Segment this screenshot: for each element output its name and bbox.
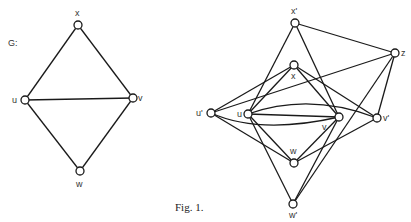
node-v	[129, 94, 137, 102]
edge-x-v	[78, 25, 133, 98]
node-w	[76, 167, 84, 175]
edge-u'-w	[211, 113, 294, 163]
edge-u-v	[25, 98, 133, 100]
edge-u-v	[248, 114, 339, 117]
node-w-prime	[289, 200, 297, 208]
graph-g: G: x u v w	[8, 8, 143, 189]
node-v-prime	[373, 114, 381, 122]
label-v: v	[138, 93, 143, 103]
node-u-prime	[207, 109, 215, 117]
edge-x-u	[25, 25, 78, 100]
figure-caption: Fig. 1.	[175, 201, 204, 213]
edge-z-w'	[293, 53, 395, 204]
node-u	[21, 96, 29, 104]
edge-v'-z	[377, 53, 395, 118]
label-v: v	[322, 122, 327, 132]
label-w-prime: w'	[288, 210, 297, 220]
node-x-prime	[291, 19, 299, 27]
figure-canvas: G: x u v w	[0, 0, 411, 222]
edge-x'-z	[295, 23, 395, 53]
label-u: u	[237, 109, 242, 119]
label-u: u	[12, 95, 17, 105]
label-v-prime: v'	[383, 113, 390, 123]
node-x	[74, 21, 82, 29]
edge-u-w	[25, 100, 80, 171]
edge-x-u	[248, 65, 294, 114]
label-u-prime: u'	[196, 108, 203, 118]
graph-label: G:	[8, 38, 18, 48]
node-u	[244, 110, 252, 118]
label-w: w	[75, 179, 83, 189]
node-w	[290, 159, 298, 167]
node-v	[335, 113, 343, 121]
label-z: z	[401, 48, 406, 58]
label-x: x	[75, 8, 80, 18]
graph-right: x' z x u' u v v' w w'	[196, 6, 406, 220]
label-x-prime: x'	[291, 6, 298, 16]
node-x	[290, 61, 298, 69]
label-x: x	[291, 71, 296, 81]
label-w: w	[289, 146, 297, 156]
node-z	[391, 49, 399, 57]
edge-u-w	[248, 114, 294, 163]
edge-v-w	[80, 98, 133, 171]
